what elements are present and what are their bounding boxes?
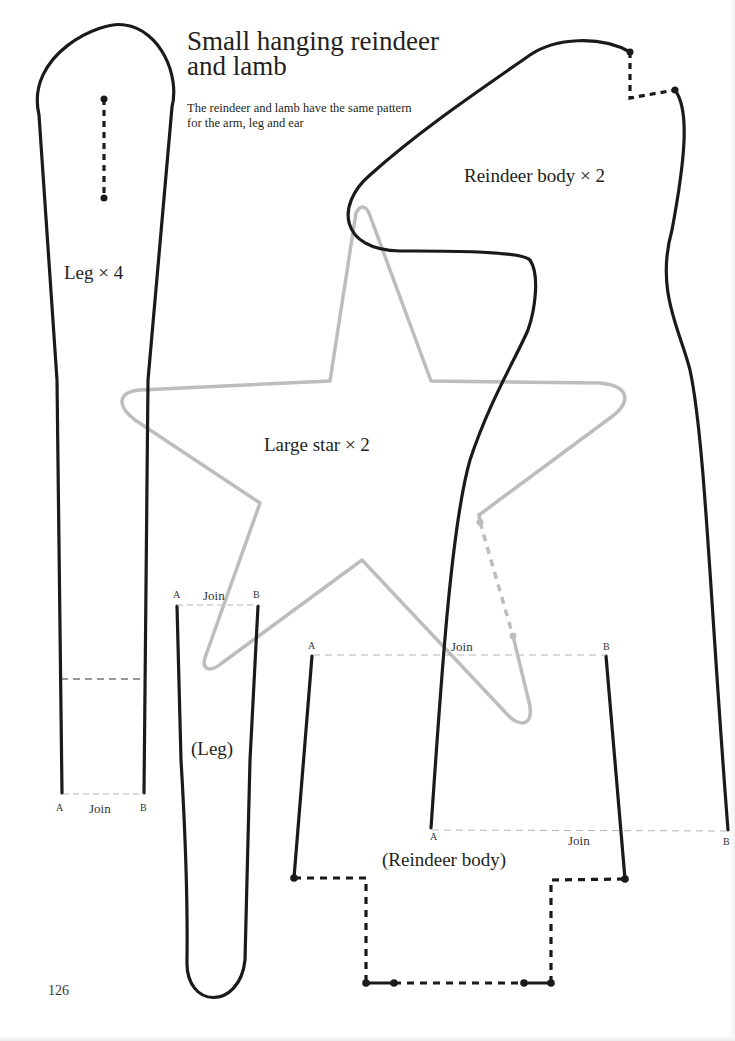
- leg-join-label: Join: [89, 801, 111, 817]
- leg-point-a: A: [56, 802, 63, 813]
- title-line-2: and lamb: [187, 54, 439, 79]
- leg-label: Leg × 4: [64, 262, 123, 284]
- reindeer-body-continuation-join-label: Join: [451, 639, 473, 655]
- large-star-outline: [122, 207, 625, 723]
- reindeer-body-point-b: B: [723, 836, 730, 847]
- page-subtitle: The reindeer and lamb have the same patt…: [187, 101, 427, 131]
- page-title: Small hanging reindeer and lamb: [187, 29, 439, 79]
- reindeer-legs-opening-dashed: [294, 878, 625, 983]
- leg-continuation-label: (Leg): [191, 738, 233, 760]
- reindeer-body-continuation-label: (Reindeer body): [382, 849, 506, 871]
- star-opening-dashed: [477, 519, 517, 640]
- large-star-label: Large star × 2: [264, 434, 370, 456]
- reindeer-body-join-label: Join: [568, 833, 590, 849]
- leg-continuation-join-label: Join: [203, 588, 225, 604]
- leg-outline: [37, 25, 173, 793]
- leg-point-b: B: [140, 802, 147, 813]
- reindeer-body-point-a: A: [430, 831, 437, 842]
- reindeer-head-opening-dashed: [627, 49, 679, 99]
- reindeer-body-continuation-point-a: A: [308, 640, 315, 651]
- page-number: 126: [48, 983, 69, 999]
- reindeer-body-label: Reindeer body × 2: [464, 165, 605, 187]
- reindeer-body-join-line: [432, 830, 728, 831]
- leg-continuation-point-b: B: [253, 589, 260, 600]
- reindeer-legs-dots: [290, 874, 629, 987]
- reindeer-body-continuation-outline: [294, 656, 625, 983]
- reindeer-body-outline: [348, 41, 728, 830]
- leg-continuation-point-a: A: [173, 589, 180, 600]
- reindeer-body-continuation-point-b: B: [603, 641, 610, 652]
- pattern-drawing: [0, 0, 735, 1041]
- leg-opening-dashed: [101, 96, 108, 202]
